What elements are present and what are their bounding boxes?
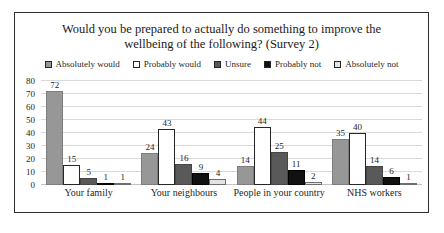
legend-swatch-icon (334, 61, 341, 68)
bar-column: 14 (366, 81, 383, 185)
bar (366, 166, 383, 184)
bar-value-label: 5 (86, 168, 91, 177)
bar-value-label: 6 (389, 167, 394, 176)
bar (237, 166, 254, 184)
x-category-label: Your family (41, 188, 136, 198)
legend-label: Probably would (144, 60, 201, 69)
chart-frame: Would you be prepared to actually do som… (14, 12, 429, 213)
bar-groups: 72155112443169414442511235401461 (41, 81, 422, 185)
bar-column: 25 (271, 81, 288, 185)
bar-value-label: 14 (370, 156, 379, 165)
bar (63, 165, 80, 185)
bar (288, 170, 305, 184)
bar (400, 183, 417, 185)
legend-swatch-icon (214, 61, 221, 68)
bar-column: 9 (192, 81, 209, 185)
bar-column: 16 (175, 81, 192, 185)
bar (141, 153, 158, 184)
chart-body: 01020304050607080 7215511244316941444251… (15, 81, 422, 185)
bar (332, 139, 349, 185)
legend-swatch-icon (133, 61, 140, 68)
bar-column: 11 (288, 81, 305, 185)
bar (271, 152, 288, 185)
bar (383, 177, 400, 185)
bar (209, 179, 226, 184)
legend-label: Probably not (275, 60, 321, 69)
bar (97, 183, 114, 185)
bar-value-label: 9 (199, 163, 204, 172)
legend-item: Probably would (133, 60, 201, 69)
y-tick-label: 20 (26, 154, 35, 163)
bar-value-label: 2 (311, 172, 316, 181)
bar-group: 7215511 (41, 81, 136, 185)
y-axis: 01020304050607080 (15, 81, 41, 185)
legend: Absolutely wouldProbably wouldUnsureProb… (15, 60, 428, 69)
bar-column: 5 (80, 81, 97, 185)
y-tick-label: 60 (26, 102, 35, 111)
bar-value-label: 35 (336, 129, 345, 138)
bar-column: 40 (349, 81, 366, 185)
bar-value-label: 44 (258, 117, 267, 126)
bar-value-label: 4 (216, 169, 221, 178)
bar-column: 14 (237, 81, 254, 185)
legend-item: Absolutely would (45, 60, 120, 69)
bar (192, 173, 209, 185)
bar-column: 4 (209, 81, 226, 185)
y-tick-label: 40 (26, 128, 35, 137)
y-tick-label: 30 (26, 141, 35, 150)
bar-value-label: 1 (406, 173, 411, 182)
bar (175, 164, 192, 185)
y-tick-label: 70 (26, 89, 35, 98)
bar-column: 1 (97, 81, 114, 185)
x-category-label: Your neighbours (136, 188, 231, 198)
y-tick-label: 10 (26, 167, 35, 176)
legend-label: Unsure (225, 60, 251, 69)
bar-value-label: 1 (120, 173, 125, 182)
bar-value-label: 24 (145, 143, 154, 152)
legend-label: Absolutely would (56, 60, 120, 69)
bar-value-label: 25 (275, 142, 284, 151)
bar-column: 35 (332, 81, 349, 185)
bar (305, 182, 322, 185)
x-category-label: People in your country (232, 188, 327, 198)
bar-value-label: 16 (179, 154, 188, 163)
bar-column: 1 (114, 81, 131, 185)
y-tick-label: 50 (26, 115, 35, 124)
bar-value-label: 72 (50, 81, 59, 90)
chart-title: Would you be prepared to actually do som… (54, 22, 389, 53)
bar-column: 24 (141, 81, 158, 185)
bar-value-label: 15 (67, 155, 76, 164)
x-axis-labels: Your familyYour neighboursPeople in your… (41, 188, 422, 198)
bar (80, 178, 97, 185)
bar-column: 43 (158, 81, 175, 185)
bar-value-label: 40 (353, 123, 362, 132)
y-tick-label: 0 (31, 180, 36, 189)
bar-group: 35401461 (327, 81, 422, 185)
bar (349, 133, 366, 185)
bar-value-label: 14 (241, 156, 250, 165)
y-tick-label: 80 (26, 76, 35, 85)
bar-value-label: 1 (103, 173, 108, 182)
chart-figure: Would you be prepared to actually do som… (0, 0, 444, 233)
bar-value-label: 43 (162, 119, 171, 128)
bar-column: 2 (305, 81, 322, 185)
bar-column: 15 (63, 81, 80, 185)
bar-column: 6 (383, 81, 400, 185)
bar-column: 44 (254, 81, 271, 185)
legend-swatch-icon (45, 61, 52, 68)
legend-item: Unsure (214, 60, 251, 69)
bar (158, 129, 175, 185)
legend-item: Absolutely not (334, 60, 398, 69)
bar-column: 1 (400, 81, 417, 185)
bar (46, 91, 63, 185)
legend-label: Absolutely not (345, 60, 398, 69)
x-category-label: NHS workers (327, 188, 422, 198)
bar-group: 144425112 (232, 81, 327, 185)
bar (114, 183, 131, 185)
plot-area: 72155112443169414442511235401461 (41, 81, 422, 185)
legend-swatch-icon (264, 61, 271, 68)
bar-group: 24431694 (136, 81, 231, 185)
bar (254, 127, 271, 184)
bar-column: 72 (46, 81, 63, 185)
bar-value-label: 11 (292, 160, 301, 169)
